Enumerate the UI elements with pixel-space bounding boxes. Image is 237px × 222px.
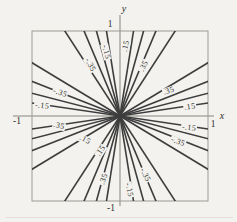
x-axis-label: x [220, 111, 224, 121]
y-tick-label: -1 [107, 204, 115, 213]
y-axis-label: y [122, 4, 126, 14]
page-artifact-line [6, 217, 233, 218]
contour-plot-figure: .15.35-.15-.35.35.15-.35-.15-.15-.35.35.… [0, 0, 237, 222]
y-tick-label: 1 [108, 20, 113, 29]
x-tick-label: -1 [13, 117, 21, 126]
plot-canvas [0, 0, 237, 222]
contour-lines [0, 0, 237, 222]
x-tick-label: 1 [211, 120, 216, 129]
